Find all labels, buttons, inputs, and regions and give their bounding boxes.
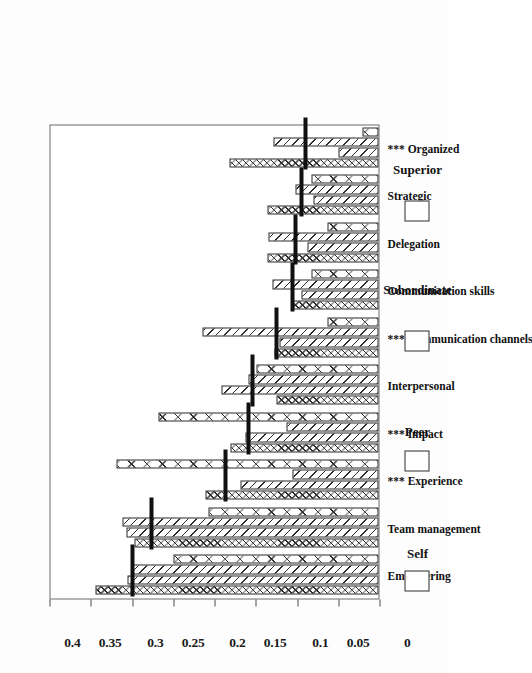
bar-self-7 [267, 253, 378, 262]
bar-self-2 [205, 490, 378, 499]
value-axis-tick [255, 599, 256, 606]
bar-peer-1 [126, 527, 378, 536]
bar-peer-3 [245, 432, 378, 441]
bar-superior-9 [362, 127, 379, 136]
bar-superior-7 [327, 222, 378, 231]
bar-peer-0 [127, 575, 378, 584]
bar-superior-1 [208, 507, 378, 516]
legend-label-self: Self [406, 546, 427, 562]
bar-peer-8 [313, 195, 378, 204]
bar-self-8 [267, 205, 378, 214]
bar-superior-0 [173, 554, 378, 563]
mean-line-7 [293, 212, 297, 264]
bar-superior-2 [116, 459, 378, 468]
bar-peer-9 [338, 147, 378, 156]
bar-superior-8 [311, 174, 378, 183]
legend: SelfPeerSubordinateSuperior [398, 124, 442, 599]
bar-peer-2 [240, 480, 378, 489]
value-axis-tick [379, 599, 380, 606]
legend-label-subordinate: Subordinate [382, 282, 451, 298]
bar-peer-7 [307, 242, 378, 251]
legend-swatch-subordinate [404, 330, 429, 351]
value-axis-tick [173, 599, 174, 606]
mean-line-1 [149, 497, 153, 549]
bar-subordinate-4 [248, 374, 378, 383]
legend-swatch-self [404, 570, 429, 591]
legend-swatch-peer [404, 450, 429, 471]
value-axis-tick [90, 599, 91, 606]
value-axis-tick [338, 599, 339, 606]
bar-peer-5 [279, 337, 378, 346]
mean-line-3 [246, 402, 250, 454]
bar-subordinate-1 [122, 517, 378, 526]
bar-self-1 [134, 538, 378, 547]
bar-superior-4 [256, 364, 378, 373]
mean-line-5 [274, 307, 278, 359]
value-axis-tick [297, 599, 298, 606]
legend-swatch-superior [404, 200, 429, 221]
value-axis-tick [49, 599, 50, 606]
bar-self-6 [291, 300, 378, 309]
bar-subordinate-8 [295, 184, 378, 193]
bar-subordinate-2 [292, 469, 378, 478]
bar-self-5 [274, 348, 378, 357]
mean-line-8 [299, 164, 303, 216]
bar-subordinate-6 [272, 279, 378, 288]
mean-line-6 [290, 259, 294, 311]
bar-peer-4 [221, 385, 378, 394]
legend-label-peer: Peer [404, 423, 429, 439]
legend-item-self: Self [404, 543, 429, 591]
legend-item-subordinate: Subordinate [404, 255, 429, 351]
bar-peer-6 [301, 290, 378, 299]
value-axis-label: 0.4 [18, 634, 80, 650]
mean-line-2 [223, 449, 227, 501]
legend-item-peer: Peer [404, 419, 429, 471]
bar-subordinate-3 [286, 422, 378, 431]
mean-line-0 [130, 544, 134, 596]
bar-superior-6 [311, 269, 378, 278]
value-axis-tick [132, 599, 133, 606]
bar-self-4 [276, 395, 378, 404]
bar-self-3 [230, 443, 379, 452]
plot-area [49, 124, 379, 599]
mean-line-9 [303, 117, 307, 169]
bar-superior-5 [327, 317, 378, 326]
bar-subordinate-5 [202, 327, 378, 336]
mean-line-4 [250, 354, 254, 406]
bar-self-0 [95, 585, 378, 594]
legend-item-superior: Superior [404, 145, 429, 221]
bar-subordinate-9 [273, 137, 378, 146]
bar-subordinate-7 [268, 232, 378, 241]
value-axis-tick [214, 599, 215, 606]
bar-superior-3 [158, 412, 378, 421]
bar-subordinate-0 [131, 564, 379, 573]
legend-label-superior: Superior [392, 161, 441, 177]
